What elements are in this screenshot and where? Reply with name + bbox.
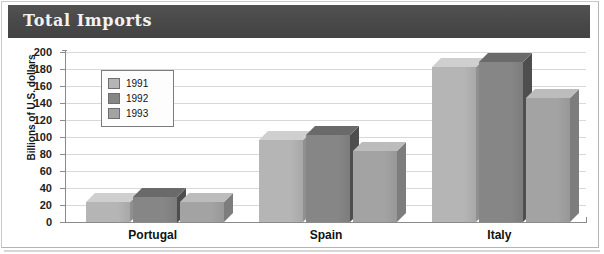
- bar-spain-1993: [353, 151, 397, 222]
- category-label-spain: Spain: [239, 228, 412, 242]
- page-title: Total Imports: [23, 11, 152, 30]
- bar-spain-1991: [259, 140, 303, 222]
- legend-item-label: 1993: [126, 108, 148, 119]
- bar-side-face: [570, 89, 579, 222]
- bar-top-face: [180, 193, 233, 202]
- legend-item-1993: 1993: [108, 106, 167, 121]
- legend-item-1992: 1992: [108, 91, 167, 106]
- bar-italy-1993: [526, 98, 570, 222]
- bar-portugal-1991: [86, 202, 130, 222]
- legend-item-label: 1992: [126, 93, 148, 104]
- x-axis-end-cap: [586, 217, 587, 223]
- bar-front-face: [526, 98, 570, 222]
- bar-front-face: [432, 67, 476, 222]
- bar-portugal-1993: [180, 202, 224, 222]
- bar-top-face: [86, 193, 139, 202]
- bar-top-face: [526, 89, 579, 98]
- y-axis-tick-label: 0: [8, 216, 52, 228]
- bar-front-face: [180, 202, 224, 222]
- bar-top-face: [353, 142, 406, 151]
- gridline: [66, 222, 586, 223]
- category-label-portugal: Portugal: [66, 228, 239, 242]
- legend-item-1991: 1991: [108, 76, 167, 91]
- bar-front-face: [479, 62, 523, 222]
- bar-front-face: [86, 202, 130, 222]
- y-axis-top-cap: [62, 50, 67, 51]
- y-axis-tick-label: 20: [8, 199, 52, 211]
- bar-front-face: [306, 135, 350, 222]
- category-label-italy: Italy: [413, 228, 586, 242]
- y-axis-title: Billions of U.S. dollars: [26, 28, 37, 188]
- chart-title-bar: Total Imports: [8, 5, 590, 38]
- legend: 199119921993: [101, 70, 174, 127]
- bar-italy-1991: [432, 67, 476, 222]
- bar-front-face: [259, 140, 303, 222]
- bar-front-face: [353, 151, 397, 222]
- bar-top-face: [133, 188, 186, 197]
- bar-portugal-1992: [133, 197, 177, 223]
- bar-front-face: [133, 197, 177, 223]
- chart-figure: Total Imports 20018016014012010080604020…: [0, 0, 604, 254]
- bar-spain-1992: [306, 135, 350, 222]
- legend-item-label: 1991: [126, 78, 148, 89]
- bar-italy-1992: [479, 62, 523, 222]
- legend-swatch-icon: [108, 108, 120, 119]
- bar-side-face: [397, 142, 406, 222]
- legend-swatch-icon: [108, 78, 120, 89]
- figure-shadow: [4, 250, 600, 252]
- legend-swatch-icon: [108, 93, 120, 104]
